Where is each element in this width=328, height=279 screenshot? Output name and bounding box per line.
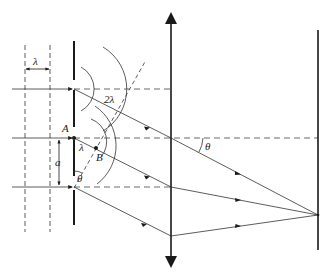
- diffraction-diagram: λ: [0, 0, 328, 279]
- point-a-label: A: [61, 122, 69, 134]
- focus-point: [317, 214, 320, 217]
- incident-wavefronts: [25, 45, 50, 232]
- diagram-canvas: λ: [0, 0, 328, 279]
- slit-spacing-label: a: [55, 156, 61, 168]
- theta-lens-label: θ: [205, 140, 211, 152]
- incident-rays: [12, 89, 72, 187]
- point-a: [72, 136, 76, 140]
- point-b: [94, 146, 98, 150]
- wavelength-label: λ: [32, 55, 38, 67]
- wavelength-marker: λ: [26, 55, 49, 69]
- path-diff-label: 2λ: [104, 93, 115, 105]
- theta-slit-label: θ: [77, 172, 83, 184]
- converged-rays: [171, 138, 318, 236]
- theta-lens-arc: [199, 138, 203, 152]
- lens-bottom-arrow-icon: [165, 256, 177, 268]
- ray-arrows-right: [235, 171, 241, 228]
- ray-arrows-left: [141, 127, 150, 228]
- point-b-label: B: [96, 151, 103, 163]
- lens-top-arrow-icon: [165, 12, 177, 24]
- lambda-ab-label: λ: [78, 141, 84, 153]
